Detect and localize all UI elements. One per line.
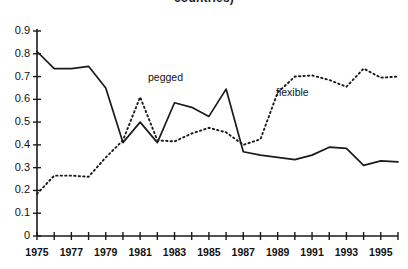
series-line-flexible [37, 69, 398, 194]
y-axis-tick-label: 0 [0, 229, 30, 241]
y-axis-tick-label: 0.5 [0, 115, 30, 127]
series-label-pegged: pegged [148, 71, 183, 83]
y-axis-tick-label: 0.1 [0, 206, 30, 218]
series-group [37, 52, 398, 194]
y-axis-tick-label: 0.4 [0, 138, 30, 150]
y-axis-tick-label: 0.3 [0, 161, 30, 173]
axes-group [33, 29, 398, 240]
chart-container: countries) 00.10.20.30.40.50.60.70.80.9 … [0, 0, 408, 269]
y-axis-tick-label: 0.7 [0, 70, 30, 82]
y-axis-tick-label: 0.8 [0, 47, 30, 59]
series-line-pegged [37, 52, 398, 166]
plot-area [0, 0, 408, 269]
x-axis-tick-label: 1995 [361, 246, 401, 258]
y-axis-tick-label: 0.2 [0, 183, 30, 195]
y-axis-tick-label: 0.9 [0, 24, 30, 36]
series-label-flexible: flexible [276, 86, 309, 98]
y-axis-tick-label: 0.6 [0, 92, 30, 104]
